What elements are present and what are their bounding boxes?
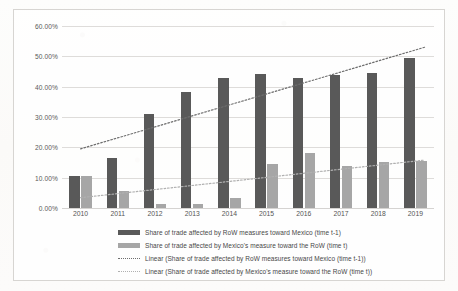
legend-item-label: Share of trade affected by Mexico's meas…: [145, 242, 347, 249]
legend-item[interactable]: Share of trade affected by Mexico's meas…: [14, 239, 446, 252]
x-axis-tick-label: 2010: [73, 210, 88, 217]
x-axis-tick-label: 2014: [222, 210, 237, 217]
x-axis-tick-label: 2018: [371, 210, 386, 217]
y-axis-tick-label: 0.00%: [39, 205, 58, 212]
axis-baseline: [62, 208, 434, 209]
y-axis-tick-label: 20.00%: [35, 144, 58, 151]
legend-item[interactable]: Share of trade affected by RoW measures …: [14, 226, 446, 239]
trendline-mexico-measures: [81, 160, 425, 198]
dark-dotted-line-swatch: [118, 258, 140, 259]
dark-bar-swatch: [118, 230, 140, 235]
legend-item-label: Linear (Share of trade affected by RoW m…: [145, 255, 366, 262]
y-axis-labels: 0.00%10.00%20.00%30.00%40.00%50.00%60.00…: [14, 26, 58, 208]
x-axis-tick-label: 2019: [408, 210, 423, 217]
legend-item-label: Linear (Share of trade affected by Mexic…: [145, 268, 372, 275]
x-axis-tick-label: 2017: [333, 210, 348, 217]
x-axis-tick-label: 2013: [185, 210, 200, 217]
y-axis-tick-label: 30.00%: [35, 114, 58, 121]
x-axis-tick-label: 2016: [296, 210, 311, 217]
trendlines-group: [62, 26, 434, 208]
y-axis-tick-label: 40.00%: [35, 83, 58, 90]
chart-container: 0.00%10.00%20.00%30.00%40.00%50.00%60.00…: [13, 9, 445, 281]
legend-item[interactable]: Linear (Share of trade affected by RoW m…: [14, 252, 446, 265]
legend-item-label: Share of trade affected by RoW measures …: [145, 229, 341, 236]
light-dotted-line-swatch: [118, 271, 140, 272]
y-axis-tick-label: 60.00%: [35, 23, 58, 30]
y-axis-tick-label: 50.00%: [35, 53, 58, 60]
x-axis-tick-label: 2012: [147, 210, 162, 217]
chart-legend: Share of trade affected by RoW measures …: [14, 226, 446, 278]
trendline-row-measures: [81, 47, 425, 149]
x-axis-tick-label: 2011: [110, 210, 125, 217]
y-axis-tick-label: 10.00%: [35, 174, 58, 181]
plot-area: [62, 26, 434, 208]
x-axis-labels: 2010201120122013201420152016201720182019: [62, 210, 434, 224]
x-axis-tick-label: 2015: [259, 210, 274, 217]
legend-item[interactable]: Linear (Share of trade affected by Mexic…: [14, 265, 446, 278]
light-bar-swatch: [118, 243, 140, 248]
